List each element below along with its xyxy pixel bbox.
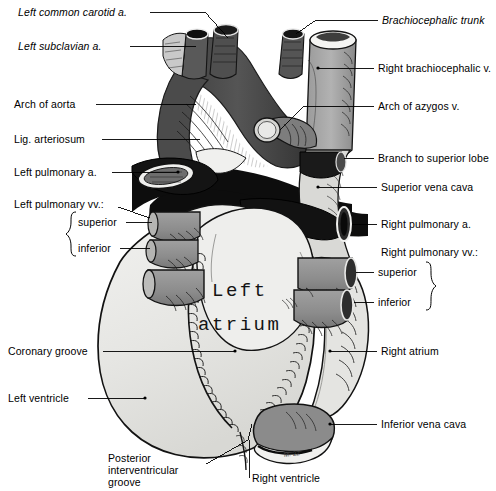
label-arch-of-aorta: Arch of aorta: [14, 98, 75, 111]
label-left-ventricle: Left ventricle: [8, 392, 69, 405]
label-left-pulmonary-artery: Left pulmonary a.: [14, 166, 97, 179]
label-right-atrium: Right atrium: [381, 345, 439, 358]
label-branch-to-superior-lobe: Branch to superior lobe: [378, 152, 489, 165]
label-inferior-vena-cava: Inferior vena cava: [381, 418, 466, 431]
label-right-pulmonary-artery: Right pulmonary a.: [381, 218, 471, 231]
label-brachiocephalic-trunk: Brachiocephalic trunk: [382, 14, 485, 27]
carotid-cut-edge: [163, 33, 186, 76]
label-left-pulmonary-veins: Left pulmonary vv.:: [14, 198, 104, 211]
left-atrium-handwritten-line2: atrium: [198, 314, 281, 336]
label-superior-vena-cava: Superior vena cava: [381, 181, 473, 194]
label-left-pulmonary-vein-inferior: inferior: [78, 242, 111, 255]
label-left-subclavian-artery: Left subclavian a.: [18, 40, 102, 53]
label-right-pulmonary-veins: Right pulmonary vv.:: [381, 246, 478, 259]
label-right-pulmonary-vein-inferior: inferior: [378, 296, 411, 309]
label-arch-of-azygos-vein: Arch of azygos v.: [378, 100, 459, 113]
left-subclavian-stump: [210, 25, 238, 79]
label-posterior-interventricular-groove-l3: groove: [108, 476, 141, 489]
label-coronary-groove: Coronary groove: [8, 345, 88, 358]
label-left-pulmonary-vein-superior: superior: [78, 216, 117, 229]
label-right-pulmonary-vein-superior: superior: [378, 266, 417, 279]
label-left-common-carotid-artery: Left common carotid a.: [18, 6, 127, 19]
label-posterior-interventricular-groove-l2: interventricular: [108, 464, 178, 477]
brace-left-pulmonary-vv: [66, 212, 76, 256]
label-ligamentum-arteriosum: Lig. arteriosum: [14, 133, 85, 146]
label-right-brachiocephalic-vein: Right brachiocephalic v.: [378, 62, 491, 75]
branch-to-superior-lobe: [300, 152, 346, 178]
label-right-ventricle: Right ventricle: [252, 472, 320, 485]
label-posterior-interventricular-groove-l1: Posterior: [108, 452, 151, 465]
inferior-vena-cava: M. 22: [254, 404, 335, 464]
brachiocephalic-trunk-stump: [279, 29, 304, 79]
brace-right-pulmonary-vv: [426, 262, 436, 310]
anatomical-figure: M. 22: [0, 0, 496, 491]
left-atrium-handwritten-line1: Left: [212, 280, 268, 302]
